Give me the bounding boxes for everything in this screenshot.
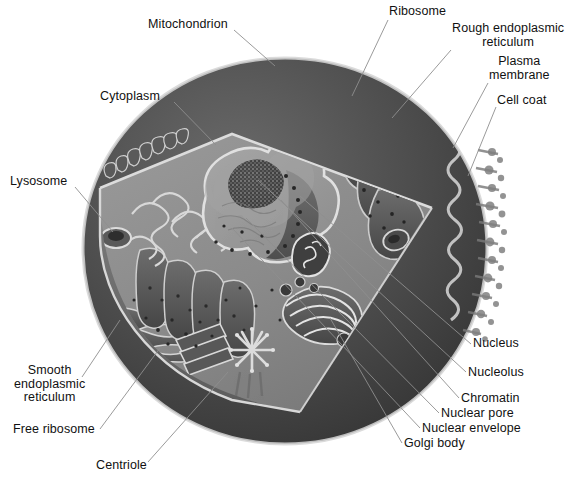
label-smooth-er: Smooth endoplasmic reticulum [14,364,85,405]
label-golgi-body: Golgi body [404,437,465,451]
label-ribosome: Ribosome [389,5,446,19]
label-nucleus: Nucleus [473,337,519,351]
label-plasma-membrane: Plasma membrane [489,55,550,82]
label-nucleolus: Nucleolus [468,366,524,380]
label-cytoplasm: Cytoplasm [100,90,160,104]
centriole-cross-section [229,327,275,373]
lysosome [101,228,131,248]
label-nuclear-envelope: Nuclear envelope [422,422,521,436]
label-free-ribosome: Free ribosome [13,423,95,437]
cell-diagram: MitochondrionRibosomeRough endoplasmic r… [0,0,571,485]
label-chromatin: Chromatin [461,392,520,406]
label-rough-er: Rough endoplasmic reticulum [452,22,564,49]
leader-line-cell-coat [468,107,496,176]
label-mitochondrion: Mitochondrion [148,18,228,32]
leader-line-plasma-membrane [453,83,488,148]
label-lysosome: Lysosome [10,175,67,189]
label-centriole: Centriole [96,459,147,473]
label-cell-coat: Cell coat [497,94,547,108]
label-nuclear-pore: Nuclear pore [441,407,514,421]
